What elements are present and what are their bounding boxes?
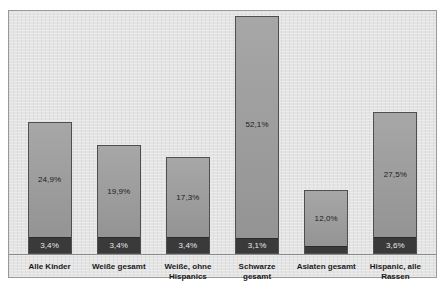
bar-segment-top: 52,1%: [236, 17, 278, 238]
stacked-bar[interactable]: 27,5% 3,6%: [373, 112, 417, 254]
stacked-bar[interactable]: 52,1% 3,1%: [235, 16, 279, 254]
bar-slot-weisse-ohne-hispanics: 17,3% 3,4%: [157, 11, 219, 254]
bar-segment-bottom: [305, 246, 347, 253]
x-axis-label: Asiaten gesamt: [295, 257, 357, 278]
bar-value-label-top: 27,5%: [384, 171, 407, 179]
bar-segment-top: 24,9%: [29, 123, 71, 237]
bar-segment-bottom: 3,6%: [374, 237, 416, 253]
bar-value-label-top: 12,0%: [315, 215, 338, 223]
bar-value-label-top: 52,1%: [245, 121, 268, 129]
bar-value-label-bottom: 3,6%: [386, 242, 405, 250]
bar-value-label-top: 17,3%: [176, 194, 199, 202]
bar-segment-top: 19,9%: [98, 146, 140, 237]
bar-segment-top: 12,0%: [305, 191, 347, 246]
bar-segment-top: 17,3%: [167, 158, 209, 237]
bar-segment-bottom: 3,4%: [29, 237, 71, 253]
bar-slot-asiaten-gesamt: 12,0%: [295, 11, 357, 254]
bar-value-label-top: 24,9%: [38, 176, 61, 184]
bar-slot-hispanic-alle-rassen: 27,5% 3,6%: [364, 11, 426, 254]
bar-value-label-bottom: 3,4%: [109, 242, 128, 250]
bar-segment-top: 27,5%: [374, 113, 416, 237]
bar-value-label-bottom: 3,4%: [40, 242, 59, 250]
bar-value-label-bottom: 3,4%: [179, 242, 198, 250]
x-axis-baseline: [9, 254, 436, 255]
bar-segment-bottom: 3,1%: [236, 238, 278, 253]
bar-slot-schwarze-gesamt: 52,1% 3,1%: [226, 11, 288, 254]
x-axis-label: Hispanic, alle Rassen: [364, 257, 426, 278]
x-axis-label: Weiße gesamt: [88, 257, 150, 278]
stacked-bar[interactable]: 17,3% 3,4%: [166, 157, 210, 254]
bar-value-label-bottom: 3,1%: [248, 242, 267, 250]
x-axis-category-labels: Alle Kinder Weiße gesamt Weiße, ohne His…: [9, 257, 436, 278]
x-axis-label: Schwarze gesamt: [226, 257, 288, 278]
x-axis-label: Weiße, ohne Hispanics: [157, 257, 219, 278]
chart-plot-area: 24,9% 3,4% 19,9% 3,4%: [9, 11, 436, 254]
bar-segment-bottom: 3,4%: [98, 237, 140, 253]
stacked-bar[interactable]: 24,9% 3,4%: [28, 122, 72, 254]
stacked-bar[interactable]: 19,9% 3,4%: [97, 145, 141, 254]
bar-segment-bottom: 3,4%: [167, 237, 209, 253]
bar-value-label-top: 19,9%: [107, 188, 130, 196]
chart-plot-frame: 24,9% 3,4% 19,9% 3,4%: [8, 10, 437, 278]
x-axis-label: Alle Kinder: [19, 257, 81, 278]
stacked-bar[interactable]: 12,0%: [304, 190, 348, 254]
bar-slot-alle-kinder: 24,9% 3,4%: [19, 11, 81, 254]
bar-slot-weisse-gesamt: 19,9% 3,4%: [88, 11, 150, 254]
chart-screenshot: 24,9% 3,4% 19,9% 3,4%: [0, 0, 445, 285]
